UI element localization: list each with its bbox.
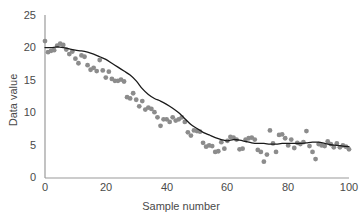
scatter-point [100, 68, 105, 73]
scatter-point [240, 146, 245, 151]
scatter-point [216, 149, 221, 154]
scatter-point [76, 61, 81, 66]
scatter-point [103, 75, 108, 80]
y-tick-label-5: 5 [10, 139, 36, 151]
scatter-point [222, 146, 227, 151]
scatter-point [283, 136, 288, 141]
scatter-point [106, 69, 111, 74]
x-tick-label-80: 80 [273, 181, 303, 193]
scatter-point [274, 150, 279, 155]
scatter-point [131, 91, 136, 96]
scatter-point [252, 137, 257, 142]
scatter-point [310, 150, 315, 155]
scatter-point [155, 115, 160, 120]
scatter-point [167, 120, 172, 125]
scatter-point [307, 144, 312, 149]
scatter-point [313, 157, 318, 162]
scatter-point [73, 56, 78, 61]
scatter-point [292, 146, 297, 151]
scatter-point [289, 137, 294, 142]
scatter-point [258, 150, 263, 155]
y-tick-label-25: 25 [10, 9, 36, 21]
scatter-point [158, 123, 163, 128]
scatter-point [189, 133, 194, 138]
x-tick-label-20: 20 [91, 181, 121, 193]
scatter-point [122, 79, 127, 84]
x-tick-label-40: 40 [152, 181, 182, 193]
scatter-point [134, 97, 139, 102]
scatter-point [52, 48, 57, 53]
scatter-point [137, 104, 142, 109]
scatter-point [265, 152, 270, 157]
scatter-point [271, 141, 276, 146]
scatter-chart: 25 20 15 10 5 0 0 20 40 60 80 100 Sample… [0, 0, 362, 223]
scatter-point [268, 128, 273, 133]
scatter-point [85, 63, 90, 68]
scatter-point [201, 140, 206, 145]
axis-lines [45, 15, 349, 178]
scatter-point [152, 110, 157, 115]
scatter-point [82, 54, 87, 59]
scatter-point [210, 144, 215, 149]
scatter-point [128, 96, 133, 101]
scatter-point [261, 159, 266, 164]
scatter-point [347, 147, 352, 152]
y-axis-title: Data value [7, 65, 19, 135]
x-tick-label-60: 60 [212, 181, 242, 193]
x-tick-label-100: 100 [334, 181, 362, 193]
scatter-point [304, 129, 309, 134]
scatter-point [61, 43, 66, 48]
scatter-point [43, 39, 48, 44]
scatter-points-layer [43, 39, 352, 164]
scatter-point [97, 58, 102, 63]
scatter-point [280, 132, 285, 137]
scatter-point [140, 99, 145, 104]
x-axis-title: Sample number [0, 200, 362, 212]
scatter-point [94, 69, 99, 74]
y-tick-label-20: 20 [10, 41, 36, 53]
x-tick-label-0: 0 [30, 181, 60, 193]
